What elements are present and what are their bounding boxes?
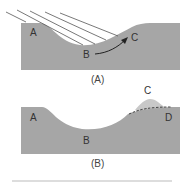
terrain-a [21, 23, 180, 70]
label-b: B [83, 135, 90, 146]
diagram: A B C (A) A B C D (B) [0, 0, 194, 182]
panel-b: A B C D (B) [21, 85, 180, 169]
caption-a: (A) [91, 74, 104, 85]
label-d: D [165, 112, 172, 123]
caption-b: (B) [91, 158, 104, 169]
panel-a: A B C (A) [6, 10, 180, 85]
label-a: A [30, 112, 37, 123]
label-b: B [83, 49, 90, 60]
terrain-b [21, 107, 180, 154]
label-a: A [30, 27, 37, 38]
label-c: C [144, 85, 151, 96]
label-c: C [131, 32, 138, 43]
